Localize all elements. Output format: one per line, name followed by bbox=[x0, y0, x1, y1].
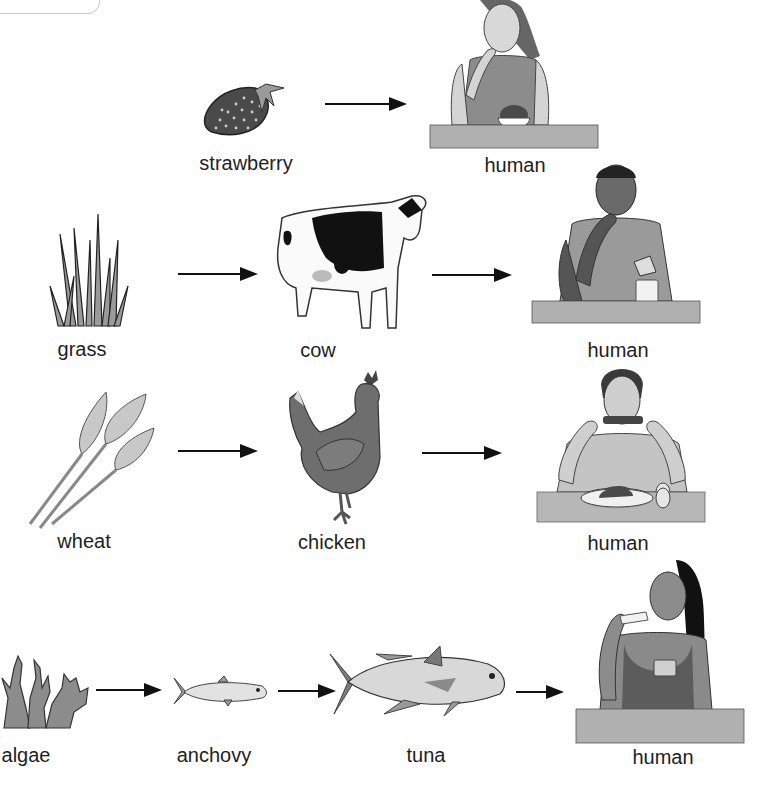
label-algae: algae bbox=[2, 744, 51, 766]
algae-icon bbox=[0, 648, 92, 730]
corner-frame bbox=[0, 0, 100, 14]
grass-icon bbox=[40, 208, 130, 328]
wheat-icon bbox=[26, 384, 166, 530]
label-human-3: human bbox=[587, 532, 648, 554]
label-wheat: wheat bbox=[57, 530, 110, 552]
woman-eating-icon bbox=[430, 0, 600, 150]
label-human-2: human bbox=[587, 339, 648, 361]
woman-eating-tuna-icon bbox=[576, 560, 746, 744]
man-eating-icon bbox=[537, 364, 707, 524]
label-cow: cow bbox=[300, 339, 336, 361]
cow-icon bbox=[272, 188, 442, 340]
chicken-icon bbox=[284, 368, 394, 528]
label-human-4: human bbox=[632, 746, 693, 768]
anchovy-icon bbox=[172, 674, 268, 710]
label-grass: grass bbox=[58, 338, 107, 360]
boy-eating-icon bbox=[532, 160, 702, 324]
label-chicken: chicken bbox=[298, 531, 366, 553]
label-strawberry: strawberry bbox=[199, 152, 292, 174]
label-tuna: tuna bbox=[407, 744, 446, 766]
tuna-icon bbox=[328, 644, 510, 720]
strawberry-icon bbox=[200, 80, 290, 140]
label-anchovy: anchovy bbox=[177, 744, 252, 766]
